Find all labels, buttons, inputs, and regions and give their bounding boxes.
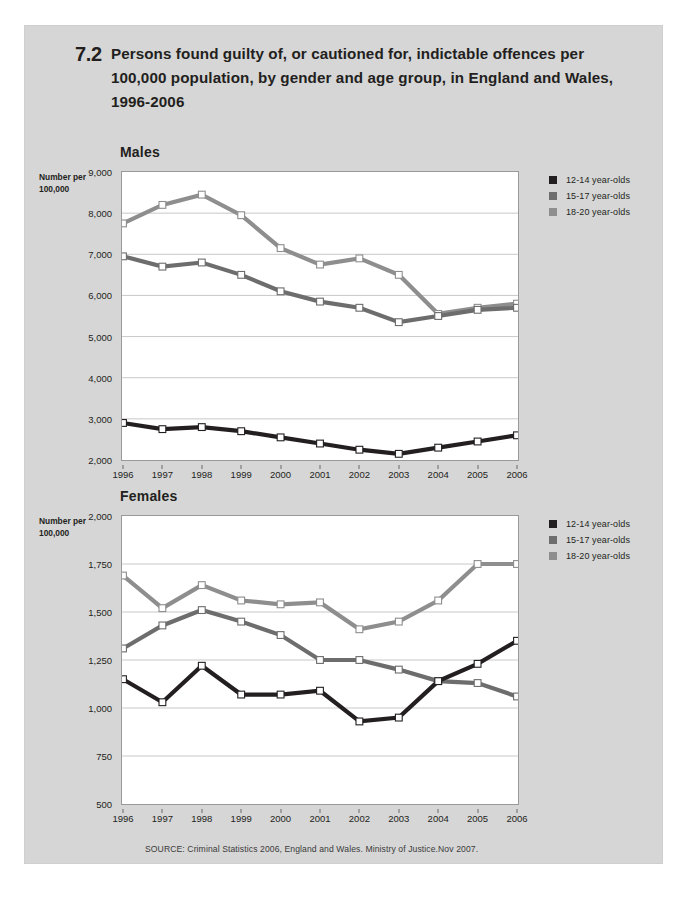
legend-item[interactable]: 12-14 year-olds — [549, 518, 630, 529]
x-axis-tick-label: 2002 — [349, 813, 370, 824]
data-point-marker — [435, 678, 442, 685]
data-point-marker — [159, 263, 166, 270]
data-point-marker — [198, 582, 205, 589]
data-point-marker — [122, 253, 126, 260]
legend-females: 12-14 year-olds15-17 year-olds18-20 year… — [549, 518, 630, 566]
data-point-marker — [238, 271, 245, 278]
data-point-marker — [395, 666, 402, 673]
x-axis-tick-label: 1998 — [191, 813, 212, 824]
legend-swatch-icon — [549, 176, 557, 184]
y-axis-tick-label: 1,250 — [88, 655, 117, 666]
plot-area-males — [121, 171, 519, 461]
data-point-marker — [122, 645, 126, 652]
plot-canvas-males — [121, 171, 519, 461]
x-axis-tick-label: 2003 — [388, 469, 409, 480]
legend-swatch-icon — [549, 552, 557, 560]
legend-item[interactable]: 18-20 year-olds — [549, 550, 630, 561]
y-axis-tick-label: 1,750 — [88, 559, 117, 570]
legend-item[interactable]: 18-20 year-olds — [549, 206, 630, 217]
x-axis-tick-label: 1999 — [231, 469, 252, 480]
data-point-marker — [277, 632, 284, 639]
legend-item-label: 12-14 year-olds — [566, 175, 630, 185]
data-point-marker — [317, 298, 324, 305]
data-point-marker — [317, 657, 324, 664]
y-axis-caption-line2: 100,000 — [39, 184, 69, 194]
chart-title-females: Females — [120, 488, 177, 504]
y-axis-tick-label: 1,000 — [88, 703, 117, 714]
data-point-marker — [435, 313, 442, 320]
data-point-marker — [122, 220, 126, 227]
data-point-marker — [356, 446, 363, 453]
legend-item[interactable]: 15-17 year-olds — [549, 190, 630, 201]
y-axis-tick-label: 8,000 — [88, 208, 117, 219]
chart-title-males: Males — [120, 144, 160, 160]
data-point-marker — [159, 426, 166, 433]
data-point-marker — [159, 699, 166, 706]
x-axis-tick-label: 2004 — [428, 813, 449, 824]
data-point-marker — [159, 622, 166, 629]
legend-swatch-icon — [549, 536, 557, 544]
data-point-marker — [395, 450, 402, 457]
chart-panel-males: Males Number per 100,000 2,0003,0004,000… — [25, 144, 662, 474]
data-point-marker — [277, 288, 284, 295]
legend-item-label: 15-17 year-olds — [566, 535, 630, 545]
data-point-marker — [356, 718, 363, 725]
plot-svg-females — [122, 516, 518, 804]
plot-canvas-females — [121, 515, 519, 805]
chart-panel-females: Females Number per 100,000 5007501,0001,… — [25, 488, 662, 843]
data-point-marker — [435, 597, 442, 604]
x-axis-tick-label: 1999 — [231, 813, 252, 824]
data-point-marker — [474, 660, 481, 667]
x-axis-ticks-males: 1996199719981999200020012002200320042005… — [121, 465, 519, 481]
source-note: SOURCE: Criminal Statistics 2006, Englan… — [145, 844, 478, 854]
legend-item-label: 15-17 year-olds — [566, 191, 630, 201]
data-point-marker — [277, 691, 284, 698]
y-axis-tick-label: 2,000 — [88, 511, 117, 522]
x-axis-tick-label: 2005 — [467, 469, 488, 480]
data-point-marker — [198, 662, 205, 669]
x-axis-tick-label: 2004 — [428, 469, 449, 480]
legend-item-label: 18-20 year-olds — [566, 551, 630, 561]
plot-area-females — [121, 515, 519, 805]
x-axis-tick-label: 2000 — [270, 469, 291, 480]
y-axis-tick-label: 3,000 — [88, 413, 117, 424]
y-axis-caption-line2-f: 100,000 — [39, 528, 69, 538]
data-point-marker — [198, 424, 205, 431]
data-point-marker — [356, 255, 363, 262]
data-point-marker — [514, 304, 518, 311]
x-axis-tick-label: 2005 — [467, 813, 488, 824]
x-axis-tick-label: 1997 — [152, 813, 173, 824]
data-point-marker — [159, 202, 166, 209]
data-point-marker — [356, 657, 363, 664]
y-axis-tick-label: 500 — [96, 799, 117, 810]
x-axis-tick-label: 2001 — [309, 813, 330, 824]
x-axis-tick-label: 2000 — [270, 813, 291, 824]
data-point-marker — [238, 691, 245, 698]
data-point-marker — [238, 618, 245, 625]
data-point-marker — [395, 714, 402, 721]
data-point-marker — [356, 304, 363, 311]
y-axis-tick-label: 2,000 — [88, 455, 117, 466]
legend-males: 12-14 year-olds15-17 year-olds18-20 year… — [549, 174, 630, 222]
x-axis-tick-label: 2002 — [349, 469, 370, 480]
figure-number: 7.2 — [75, 42, 102, 67]
data-point-marker — [317, 261, 324, 268]
y-axis-ticks-males: 2,0003,0004,0005,0006,0007,0008,0009,000 — [71, 171, 117, 461]
legend-swatch-icon — [549, 208, 557, 216]
data-point-marker — [474, 306, 481, 313]
data-point-marker — [198, 607, 205, 614]
legend-item[interactable]: 15-17 year-olds — [549, 534, 630, 545]
data-point-marker — [514, 561, 518, 568]
data-point-marker — [395, 271, 402, 278]
legend-item[interactable]: 12-14 year-olds — [549, 174, 630, 185]
page-sheet: 7.2 Persons found guilty of, or cautione… — [25, 26, 662, 863]
data-point-marker — [277, 245, 284, 252]
x-axis-tick-label: 1996 — [112, 813, 133, 824]
y-axis-tick-label: 6,000 — [88, 290, 117, 301]
data-point-marker — [198, 191, 205, 198]
legend-swatch-icon — [549, 520, 557, 528]
figure-page: 7.2 Persons found guilty of, or cautione… — [0, 0, 686, 910]
plot-svg-males — [122, 172, 518, 460]
y-axis-tick-label: 7,000 — [88, 249, 117, 260]
x-axis-ticks-females: 1996199719981999200020012002200320042005… — [121, 809, 519, 825]
